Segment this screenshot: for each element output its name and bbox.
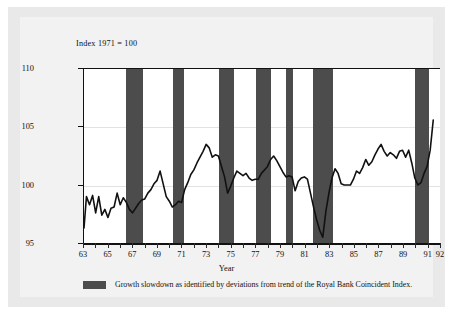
x-tick-label: 87 — [374, 250, 382, 259]
x-tick-label: 91 — [424, 250, 432, 259]
x-tick — [145, 243, 146, 248]
x-tick-label: 73 — [202, 250, 210, 259]
x-tick-label: 83 — [325, 250, 333, 259]
x-tick-label: 63 — [79, 250, 87, 259]
legend: Growth slowdown as identified by deviati… — [83, 279, 443, 291]
x-tick — [268, 243, 269, 248]
y-tick — [78, 68, 83, 69]
x-tick — [218, 243, 219, 248]
x-axis-line — [83, 243, 440, 245]
x-tick — [157, 243, 158, 248]
x-tick-label: 75 — [227, 250, 235, 259]
x-tick — [354, 243, 355, 248]
x-axis-title: Year — [20, 264, 433, 273]
y-tick — [78, 243, 83, 244]
y-tick — [78, 126, 83, 127]
y-tick-label: 105 — [21, 122, 34, 131]
x-tick-label: 71 — [177, 250, 185, 259]
x-tick-label: 79 — [276, 250, 284, 259]
x-tick-label: 69 — [153, 250, 161, 259]
x-tick — [378, 243, 379, 248]
x-tick — [95, 243, 96, 248]
x-tick — [415, 243, 416, 248]
legend-swatch-slowdown — [83, 281, 106, 289]
x-tick — [305, 243, 306, 248]
x-tick-label: 77 — [251, 250, 259, 259]
x-tick — [132, 243, 133, 248]
x-tick — [194, 243, 195, 248]
x-tick — [206, 243, 207, 248]
x-tick — [366, 243, 367, 248]
legend-label-slowdown: Growth slowdown as identified by deviati… — [115, 279, 412, 291]
x-tick — [280, 243, 281, 248]
x-tick — [255, 243, 256, 248]
x-tick-label: 67 — [128, 250, 136, 259]
x-tick — [317, 243, 318, 248]
x-tick — [231, 243, 232, 248]
figure-panel: Index 1971 = 100 63656769717375777981838… — [8, 7, 445, 307]
y-tick-label: 110 — [22, 64, 34, 73]
x-tick-label: 65 — [103, 250, 111, 259]
x-tick — [342, 243, 343, 248]
x-tick — [403, 243, 404, 248]
plot-area — [83, 68, 440, 243]
x-tick — [391, 243, 392, 248]
x-tick — [292, 243, 293, 248]
x-tick — [83, 243, 84, 248]
x-tick-label: 89 — [399, 250, 407, 259]
x-tick — [181, 243, 182, 248]
chart-card: Index 1971 = 100 63656769717375777981838… — [20, 17, 433, 297]
x-tick — [108, 243, 109, 248]
x-tick-label: 81 — [300, 250, 308, 259]
series-line — [84, 69, 440, 243]
chart-title: Index 1971 = 100 — [76, 39, 137, 48]
x-tick — [428, 243, 429, 248]
x-tick — [243, 243, 244, 248]
x-tick — [120, 243, 121, 248]
x-tick — [329, 243, 330, 248]
y-tick-label: 95 — [26, 239, 34, 248]
plot-clip — [84, 69, 440, 243]
y-tick — [78, 185, 83, 186]
x-tick-label: 85 — [350, 250, 358, 259]
y-tick-label: 100 — [21, 180, 34, 189]
x-tick — [169, 243, 170, 248]
x-tick — [440, 243, 441, 248]
x-tick-label: 92 — [436, 250, 444, 259]
